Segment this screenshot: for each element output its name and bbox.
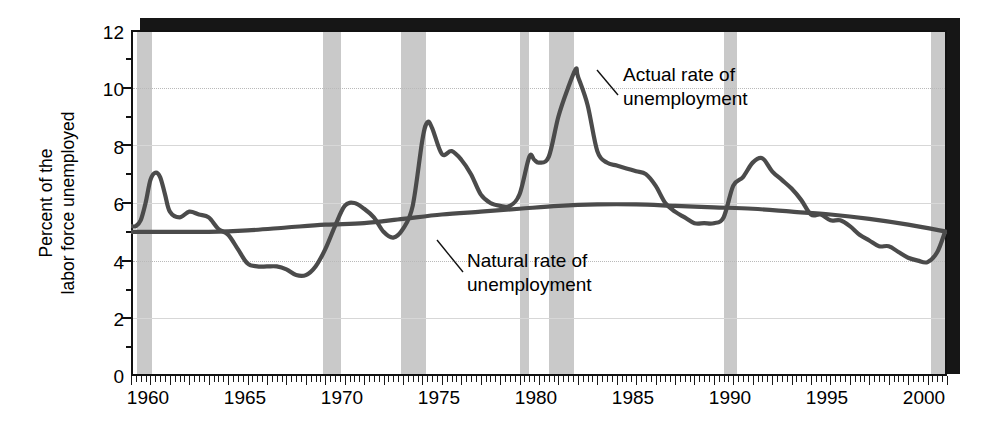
x-tick-minor: [418, 376, 419, 382]
x-tick-minor: [505, 376, 506, 382]
x-tick-minor: [549, 376, 550, 382]
x-tick-minor: [860, 376, 861, 382]
x-tick-minor: [622, 376, 623, 382]
x-tick-minor: [165, 376, 166, 382]
x-tick-minor: [388, 376, 389, 382]
x-tick-major: [481, 376, 482, 385]
x-tick-minor: [155, 376, 156, 382]
x-tick-minor: [141, 376, 142, 382]
x-tick-minor: [665, 376, 666, 382]
x-tick-minor: [646, 376, 647, 382]
x-tick-minor: [199, 376, 200, 382]
x-tick-minor: [413, 376, 414, 382]
x-tick-minor: [602, 376, 603, 382]
x-tick-minor: [524, 376, 525, 382]
x-tick-major: [830, 376, 831, 385]
x-tick-major: [248, 376, 249, 385]
x-tick-major: [558, 376, 559, 385]
x-tick-minor: [879, 376, 880, 382]
x-tick-minor: [262, 376, 263, 382]
x-tick-minor: [466, 376, 467, 382]
x-tick-minor: [942, 376, 943, 382]
x-tick-major: [539, 376, 540, 385]
x-tick-minor: [787, 376, 788, 382]
y-tick-4: [122, 260, 131, 262]
x-tick-major: [345, 376, 346, 385]
y-minor-tick-9: [126, 116, 131, 118]
x-tick-major: [675, 376, 676, 385]
x-tick-minor: [719, 376, 720, 382]
x-tick-minor: [782, 376, 783, 382]
x-tick-minor: [243, 376, 244, 382]
x-tick-minor: [379, 376, 380, 382]
x-tick-minor: [214, 376, 215, 382]
y-minor-tick-5: [126, 231, 131, 233]
actual-rate-leader-line: [597, 70, 618, 95]
x-tick-minor: [573, 376, 574, 382]
x-tick-minor: [534, 376, 535, 382]
x-tick-minor: [180, 376, 181, 382]
x-tick-major: [694, 376, 695, 385]
y-tick-10: [122, 87, 131, 89]
x-tick-major: [170, 376, 171, 385]
x-tick-major: [656, 376, 657, 385]
x-tick-minor: [801, 376, 802, 382]
x-tick-minor: [777, 376, 778, 382]
y-minor-tick-3: [126, 289, 131, 291]
x-tick-minor: [369, 376, 370, 382]
x-tick-minor: [350, 376, 351, 382]
x-tick-minor: [738, 376, 739, 382]
x-tick-minor: [724, 376, 725, 382]
x-tick-minor: [554, 376, 555, 382]
x-tick-minor: [398, 376, 399, 382]
chart-series-layer: [0, 0, 988, 432]
x-tick-minor: [354, 376, 355, 382]
x-tick-minor: [607, 376, 608, 382]
x-tick-minor: [767, 376, 768, 382]
x-tick-major: [714, 376, 715, 385]
x-tick-minor: [486, 376, 487, 382]
x-tick-minor: [282, 376, 283, 382]
x-tick-minor: [758, 376, 759, 382]
x-tick-minor: [393, 376, 394, 382]
x-tick-major: [384, 376, 385, 385]
x-tick-minor: [301, 376, 302, 382]
x-tick-minor: [762, 376, 763, 382]
x-tick-major: [636, 376, 637, 385]
x-tick-major: [908, 376, 909, 385]
y-minor-tick-1: [126, 346, 131, 348]
x-tick-minor: [641, 376, 642, 382]
x-tick-minor: [690, 376, 691, 382]
x-tick-minor: [874, 376, 875, 382]
x-tick-major: [947, 376, 948, 385]
x-tick-minor: [160, 376, 161, 382]
x-tick-minor: [223, 376, 224, 382]
x-tick-major: [772, 376, 773, 385]
x-tick-minor: [660, 376, 661, 382]
x-tick-minor: [359, 376, 360, 382]
x-tick-minor: [884, 376, 885, 382]
x-tick-minor: [218, 376, 219, 382]
x-tick-minor: [277, 376, 278, 382]
x-tick-minor: [680, 376, 681, 382]
x-tick-major: [500, 376, 501, 385]
x-tick-minor: [296, 376, 297, 382]
x-tick-minor: [544, 376, 545, 382]
x-tick-minor: [743, 376, 744, 382]
x-tick-minor: [864, 376, 865, 382]
x-tick-major: [811, 376, 812, 385]
x-tick-minor: [374, 376, 375, 382]
x-tick-minor: [568, 376, 569, 382]
x-tick-minor: [447, 376, 448, 382]
x-tick-minor: [937, 376, 938, 382]
x-tick-minor: [709, 376, 710, 382]
x-tick-minor: [835, 376, 836, 382]
x-tick-minor: [204, 376, 205, 382]
x-tick-minor: [583, 376, 584, 382]
x-tick-major: [461, 376, 462, 385]
x-tick-minor: [320, 376, 321, 382]
x-tick-major: [792, 376, 793, 385]
x-tick-minor: [592, 376, 593, 382]
x-tick-major: [889, 376, 890, 385]
x-tick-major: [286, 376, 287, 385]
